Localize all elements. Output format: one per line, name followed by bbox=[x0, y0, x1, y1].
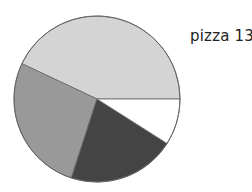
chart-title: pizza 13 bbox=[190, 27, 252, 45]
pie-slices bbox=[14, 16, 180, 182]
